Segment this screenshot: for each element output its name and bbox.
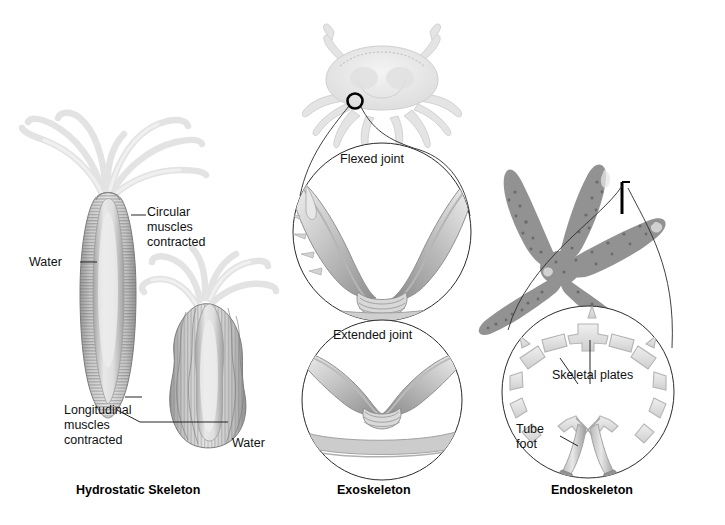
- panel-title-hydrostatic: Hydrostatic Skeleton: [76, 483, 200, 497]
- panel-title-endoskeleton: Endoskeleton: [551, 483, 633, 497]
- crab-art: [302, 24, 461, 148]
- label-circular-muscles: Circular muscles contracted: [147, 205, 205, 249]
- label-skeletal-plates: Skeletal plates: [552, 368, 633, 383]
- hydra-contracted-art: [142, 248, 276, 448]
- extended-joint-illustration: [296, 320, 470, 480]
- label-tube-foot: Tube foot: [516, 422, 544, 452]
- endoskeleton-illustration: [502, 306, 674, 483]
- flexed-joint-illustration: [288, 143, 474, 329]
- panel-title-exoskeleton: Exoskeleton: [337, 483, 411, 497]
- label-extended-joint: Extended joint: [333, 328, 412, 343]
- figure-canvas: Circular muscles contracted Water Longit…: [0, 0, 725, 525]
- label-water-lower: Water: [232, 436, 265, 451]
- label-flexed-joint: Flexed joint: [340, 152, 404, 167]
- label-longitudinal-muscles: Longitudinal muscles contracted: [64, 403, 131, 447]
- label-water-upper: Water: [29, 255, 62, 270]
